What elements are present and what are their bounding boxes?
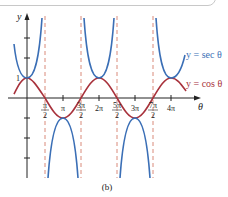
tick-3pi-half-num: 3π bbox=[77, 101, 85, 110]
tick-pi: π bbox=[61, 104, 65, 113]
tick-pi-half-num: π bbox=[43, 101, 47, 110]
sec-cos-chart: y θ 1 y = sec θ y = cos θ π 2 π 3π 2 2π … bbox=[0, 0, 228, 197]
tick-7pi-half-den: 2 bbox=[151, 111, 155, 120]
tick-pi-half-den: 2 bbox=[43, 111, 47, 120]
sec-legend-label: y = sec θ bbox=[186, 49, 222, 60]
tick-3pi: 3π bbox=[131, 104, 139, 113]
tick-2pi: 2π bbox=[95, 104, 103, 113]
y-axis-arrow-icon bbox=[25, 13, 30, 20]
tick-3pi-half-den: 2 bbox=[79, 111, 83, 120]
tick-4pi: 4π bbox=[167, 104, 175, 113]
figure-caption: (b) bbox=[102, 182, 113, 192]
tick-5pi-half-den: 2 bbox=[115, 111, 119, 120]
tick-5pi-half-num: 5π bbox=[113, 101, 121, 110]
x-axis-label: θ bbox=[198, 101, 203, 112]
x-axis-arrow-icon bbox=[194, 96, 201, 101]
y-axis-label: y bbox=[16, 11, 22, 22]
y-tick-label-1: 1 bbox=[16, 74, 20, 83]
tick-7pi-half-num: 7π bbox=[149, 101, 157, 110]
axes bbox=[8, 18, 196, 178]
cos-legend-label: y = cos θ bbox=[186, 78, 222, 89]
